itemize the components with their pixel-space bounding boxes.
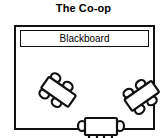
table-right [120,77,166,117]
blackboard-label: Blackboard [59,33,109,44]
table-left [40,77,86,117]
blackboard-area: Blackboard [20,30,149,47]
floor-plan-diagram: The Co-op Blackboard [0,0,167,138]
table-center [76,115,126,138]
page-title: The Co-op [0,2,167,15]
room-outline: Blackboard [14,25,155,130]
